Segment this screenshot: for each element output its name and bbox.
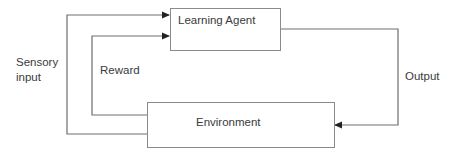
learning-agent-label: Learning Agent — [178, 14, 255, 26]
environment-label: Environment — [196, 116, 261, 128]
environment-box: Environment — [147, 102, 335, 148]
sensory-input-label: Sensory input — [16, 55, 58, 85]
reward-label: Reward — [100, 63, 140, 78]
output-label: Output — [405, 69, 440, 84]
learning-agent-box: Learning Agent — [170, 8, 281, 51]
